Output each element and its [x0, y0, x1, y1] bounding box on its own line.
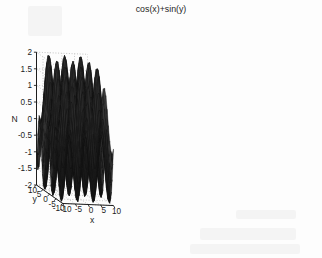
z-tick-label: 2	[27, 48, 32, 57]
y-tick-label: 10	[28, 186, 38, 195]
z-tick-label: -1.5	[18, 164, 33, 173]
z-tick-label: 0	[27, 115, 32, 124]
page-title: cos(x)+sin(y)	[136, 4, 187, 14]
surface-mesh	[37, 55, 114, 203]
x-tick-labels: -10-50510	[60, 205, 122, 216]
z-tick-label: 1.5	[21, 65, 33, 74]
y-tick-label: -5	[48, 200, 56, 209]
x-tick-label: -5	[75, 205, 83, 214]
y-tick-label: 0	[43, 195, 48, 204]
z-tick-label: 1	[27, 81, 32, 90]
z-tick-label: 0.5	[21, 98, 33, 107]
x-tick-label: 5	[102, 206, 107, 215]
y-tick-label: 5	[37, 190, 42, 199]
z-axis-label: N	[11, 114, 17, 124]
z-tick-label: -1	[25, 148, 33, 157]
x-axis-label: x	[90, 215, 95, 225]
x-tick-label: 0	[89, 206, 94, 215]
surface-plot-3d: cos(x)+sin(y) N x y -2-1.5-1-0.500.511.5…	[0, 0, 322, 258]
x-tick-label: 10	[112, 207, 122, 216]
figure-canvas: cos(x)+sin(y) N x y -2-1.5-1-0.500.511.5…	[0, 0, 322, 258]
z-tick-labels: -2-1.5-1-0.500.511.52	[18, 48, 33, 190]
z-tick-label: -0.5	[18, 131, 33, 140]
